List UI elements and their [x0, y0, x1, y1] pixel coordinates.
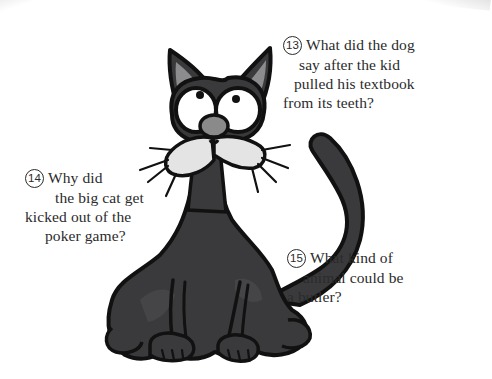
riddle-text-line: What kind of: [310, 249, 393, 266]
riddle-text-line: say after the kid: [283, 55, 415, 74]
riddle-text-line: the big cat get: [25, 188, 144, 207]
cat-paw-left: [150, 333, 194, 361]
riddle-text-line: from its teeth?: [283, 93, 415, 112]
riddle-text-line: pulled his textbook: [283, 74, 415, 93]
riddle-text-line: animal could be: [287, 268, 404, 287]
riddle-text-line: a butler?: [287, 287, 404, 306]
riddle-number-badge: 13: [283, 36, 302, 55]
riddle-text-line: What did the dog: [306, 36, 415, 53]
cat-paw-right: [218, 335, 258, 361]
riddle-15: 15What kind of animal could be a butler?: [287, 248, 404, 306]
cat-pupil-left: [196, 91, 204, 99]
riddle-14: 14Why did the big cat get kicked out of …: [25, 168, 144, 245]
riddle-13: 13What did the dog say after the kid pul…: [283, 35, 415, 112]
riddle-number-badge: 14: [25, 169, 44, 188]
riddle-text-line: kicked out of the: [25, 207, 144, 226]
cat-nose: [200, 115, 228, 137]
cat-pupil-right: [232, 95, 240, 103]
riddle-text-line: Why did: [48, 169, 103, 186]
riddle-number-badge: 15: [287, 249, 306, 268]
riddle-text-line: poker game?: [25, 226, 144, 245]
